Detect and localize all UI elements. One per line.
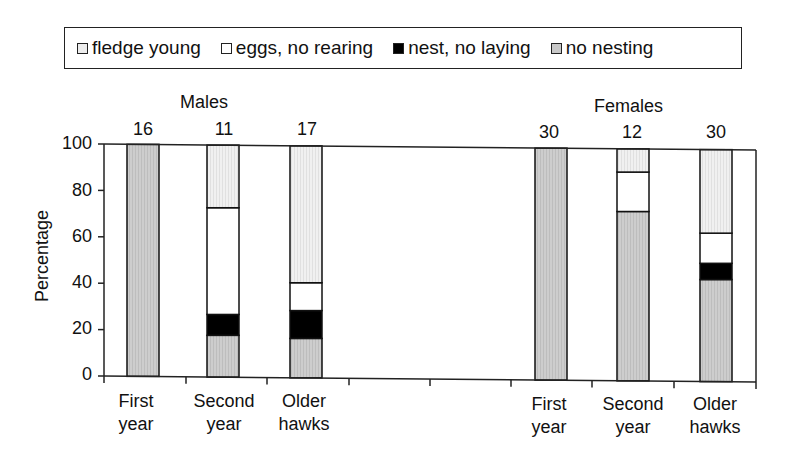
bar-segment-nest-no-laying — [700, 263, 732, 279]
x-label-line: hawks — [259, 413, 349, 436]
y-ticks — [98, 144, 104, 376]
x-label-line: Older — [670, 393, 760, 416]
x-label-line: year — [91, 413, 181, 436]
bar-segment-fledge-young — [700, 150, 732, 234]
bar-segment-nest-no-laying — [207, 314, 239, 335]
x-label-males-second-year: Second year — [179, 390, 269, 436]
bar-segment-no-nesting — [535, 148, 567, 380]
x-label-males-first-year: First year — [91, 390, 181, 436]
x-label-females-second-year: Second year — [588, 393, 678, 439]
bar-segment-fledge-young — [617, 149, 649, 172]
bar-segment-fledge-young — [290, 146, 322, 283]
bar-segment-fledge-young — [207, 145, 239, 208]
x-label-line: First — [91, 390, 181, 413]
bar-segment-no-nesting — [127, 144, 159, 376]
bar-segment-no-nesting — [207, 335, 239, 377]
bar-segment-eggs-no-rearing — [207, 208, 239, 315]
x-label-line: hawks — [670, 416, 760, 439]
x-label-line: Second — [588, 393, 678, 416]
plot-top-border — [104, 144, 756, 150]
bar-segment-nest-no-laying — [290, 311, 322, 339]
x-label-line: year — [504, 416, 594, 439]
bar-segment-no-nesting — [290, 338, 322, 377]
bars-layer — [127, 144, 732, 381]
x-label-line: First — [504, 393, 594, 416]
x-label-line: Second — [179, 390, 269, 413]
bar-segment-no-nesting — [617, 212, 649, 381]
x-label-line: year — [588, 416, 678, 439]
bar-segment-eggs-no-rearing — [617, 172, 649, 211]
x-label-females-first-year: First year — [504, 393, 594, 439]
bar-segment-eggs-no-rearing — [700, 233, 732, 263]
bar-segment-eggs-no-rearing — [290, 283, 322, 311]
x-ticks — [104, 376, 756, 389]
x-label-line: year — [179, 413, 269, 436]
bar-segment-no-nesting — [700, 280, 732, 382]
x-label-females-older-hawks: Older hawks — [670, 393, 760, 439]
x-label-line: Older — [259, 390, 349, 413]
x-label-males-older-hawks: Older hawks — [259, 390, 349, 436]
